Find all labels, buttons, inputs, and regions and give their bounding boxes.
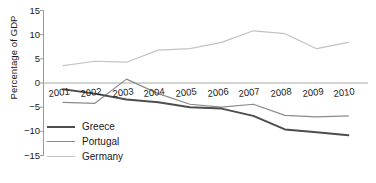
x-tick-label: 2002 bbox=[80, 86, 102, 98]
legend-swatch-icon bbox=[47, 156, 75, 157]
legend-item-germany[interactable]: Germany bbox=[47, 149, 123, 164]
x-tick-label: 2010 bbox=[333, 86, 355, 98]
x-tick-label: 2005 bbox=[175, 86, 197, 98]
x-tick-label: 2003 bbox=[112, 86, 134, 98]
legend-item-label: Greece bbox=[82, 122, 115, 132]
x-tick-label: 2009 bbox=[302, 86, 324, 98]
chart-figure: Percentage of GDP 151050−5−10−15 2001200… bbox=[0, 0, 376, 183]
chart-legend: GreecePortugalGermany bbox=[47, 119, 123, 164]
legend-item-greece[interactable]: Greece bbox=[47, 119, 123, 134]
legend-swatch-icon bbox=[47, 141, 75, 142]
legend-item-label: Portugal bbox=[82, 137, 119, 147]
x-tick-label: 2001 bbox=[48, 86, 70, 98]
x-tick-label: 2008 bbox=[270, 86, 292, 98]
x-tick-label: 2004 bbox=[143, 86, 165, 98]
x-tick-label: 2006 bbox=[207, 86, 229, 98]
legend-item-label: Germany bbox=[82, 152, 123, 162]
x-tick-label: 2007 bbox=[238, 86, 260, 98]
legend-item-portugal[interactable]: Portugal bbox=[47, 134, 123, 149]
legend-swatch-icon bbox=[47, 126, 75, 128]
